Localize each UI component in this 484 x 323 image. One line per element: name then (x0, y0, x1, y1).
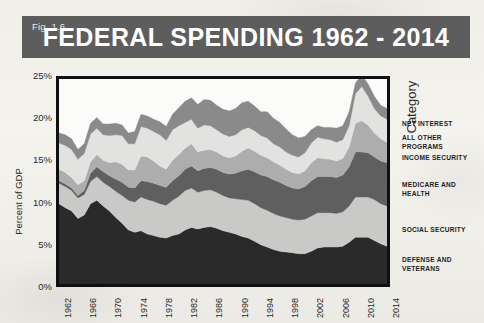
x-axis-tick-label: 1966 (88, 298, 98, 318)
x-axis-tick-label: 1974 (139, 298, 149, 318)
x-axis-tick-label: 1978 (164, 298, 174, 318)
x-axis-tick-label: 1962 (63, 298, 73, 318)
stacked-area-chart (59, 79, 387, 284)
x-axis: 1962196619701974197819821986199019941998… (56, 290, 390, 323)
chart-title-bar: Fig. 1.6 FEDERAL SPENDING 1962 - 2014 (22, 16, 470, 58)
plot-area (56, 76, 390, 287)
x-axis-tick-label: 1970 (113, 298, 123, 318)
x-axis-tick-label: 2002 (315, 298, 325, 318)
y-axis: 0%5%10%15%20%25% (0, 0, 52, 323)
legend: Category NET INTERESTALL OTHER PROGRAMSI… (393, 72, 484, 287)
x-axis-tick-label: 1982 (189, 298, 199, 318)
y-axis-tick-label: 5% (4, 240, 52, 250)
x-axis-tick-label: 2006 (341, 298, 351, 318)
y-axis-tick-label: 20% (4, 113, 52, 123)
x-axis-tick-label: 1998 (290, 298, 300, 318)
page-title: FEDERAL SPENDING 1962 - 2014 (22, 23, 470, 52)
x-axis-tick-label: 1990 (240, 298, 250, 318)
y-axis-tick-label: 10% (4, 198, 52, 208)
legend-entry[interactable]: ALL OTHER PROGRAMS (402, 134, 484, 151)
x-axis-tick-label: 1986 (214, 298, 224, 318)
y-axis-tick-label: 0% (4, 282, 52, 292)
legend-entry[interactable]: INCOME SECURITY (402, 154, 484, 163)
x-axis-tick-label: 1994 (265, 298, 275, 318)
y-axis-title: Percent of GDP (13, 152, 24, 252)
y-axis-tick-label: 15% (4, 155, 52, 165)
legend-entry[interactable]: MEDICARE AND HEALTH (402, 181, 484, 198)
y-axis-tick-label: 25% (4, 71, 52, 81)
x-axis-tick-label: 2014 (391, 298, 401, 318)
legend-entry[interactable]: SOCIAL SECURITY (402, 226, 484, 235)
legend-entry[interactable]: DEFENSE AND VETERANS (402, 256, 484, 273)
x-axis-tick-label: 2010 (366, 298, 376, 318)
legend-entry[interactable]: NET INTEREST (402, 120, 484, 129)
